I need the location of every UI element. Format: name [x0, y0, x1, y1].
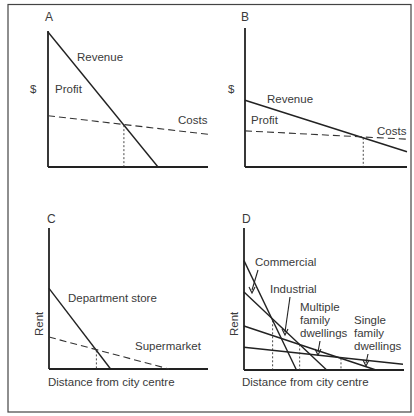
- panel-b-costs-label: Costs: [377, 125, 407, 137]
- panel-a: A $ Revenue Profit Costs: [30, 10, 211, 167]
- panel-b: B $ Revenue Profit Costs: [228, 10, 407, 167]
- panel-a-costs-label: Costs: [178, 114, 208, 126]
- panel-d-commercial-label: Commercial: [255, 256, 316, 268]
- panel-a-profit-label: Profit: [55, 83, 83, 95]
- panel-a-y-label: $: [30, 83, 37, 95]
- panel-b-label: B: [241, 10, 249, 24]
- panel-d: D Rent Commercial Industrial Multiple fa…: [228, 212, 404, 388]
- panel-a-label: A: [45, 10, 53, 24]
- panel-a-revenue-label: Revenue: [77, 51, 123, 63]
- panel-d-multiple-label-2: family: [300, 314, 330, 326]
- panel-d-single-label-1: Single: [354, 314, 386, 326]
- panel-d-industrial-pointer: [285, 297, 290, 332]
- panel-b-y-label: $: [228, 83, 235, 95]
- panel-d-single-label-3: dwellings: [354, 340, 402, 352]
- panel-c-x-label: Distance from city centre: [48, 376, 175, 388]
- panel-b-profit-label: Profit: [251, 114, 279, 126]
- panel-d-label: D: [242, 212, 251, 226]
- panel-d-commercial-line: [244, 261, 296, 370]
- panel-d-industrial-label: Industrial: [270, 283, 317, 295]
- panel-d-single-label-2: family: [354, 327, 384, 339]
- panel-b-revenue-label: Revenue: [267, 93, 313, 105]
- bid-rent-diagram: A $ Revenue Profit Costs B $ Revenue Pro…: [0, 0, 414, 416]
- panel-c-label: C: [47, 212, 56, 226]
- panel-c-department-store-label: Department store: [68, 292, 157, 304]
- panel-d-multiple-label-3: dwellings: [300, 327, 348, 339]
- panel-d-x-label: Distance from city centre: [242, 376, 369, 388]
- panel-c-supermarket-label: Supermarket: [135, 340, 202, 352]
- panel-d-y-label: Rent: [228, 311, 240, 336]
- figure-border: [8, 5, 411, 413]
- panel-c: C Rent Department store Supermarket Dist…: [33, 212, 208, 388]
- panel-d-multiple-label-1: Multiple: [300, 301, 340, 313]
- panel-c-y-label: Rent: [33, 311, 45, 336]
